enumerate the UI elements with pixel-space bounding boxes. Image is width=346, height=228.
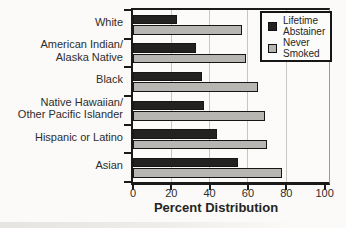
- category-label: American Indian/Alaska Native: [0, 37, 123, 66]
- category-label: Hispanic or Latino: [0, 123, 123, 152]
- x-axis-tick-label: 0: [130, 187, 136, 199]
- legend-swatch-black-icon: [268, 22, 277, 31]
- category-label: White: [0, 8, 123, 37]
- bar-lifetime-abstainer: [133, 101, 204, 111]
- y-axis-tick: [124, 124, 131, 126]
- legend-entry-lifetime-abstainer: Lifetime Abstainer: [268, 15, 330, 37]
- scan-edge-shadow: [0, 222, 346, 228]
- bar-never-smoked: [133, 140, 267, 150]
- bar-lifetime-abstainer: [133, 15, 177, 25]
- legend-swatch-gray-icon: [268, 44, 277, 53]
- category-label: Asian: [0, 151, 123, 180]
- legend: Lifetime Abstainer Never Smoked: [260, 11, 332, 62]
- x-axis-tick-label: 60: [242, 187, 254, 199]
- bar-never-smoked: [133, 168, 282, 178]
- y-axis-tick: [124, 66, 131, 68]
- x-axis-tick-label: 100: [315, 187, 333, 199]
- x-axis-tick-label: 80: [280, 187, 292, 199]
- legend-entry-never-smoked: Never Smoked: [268, 37, 330, 59]
- bar-never-smoked: [133, 111, 265, 121]
- gridline-20: [171, 10, 172, 182]
- x-axis-tick-label: 40: [204, 187, 216, 199]
- gridline-60: [247, 10, 248, 182]
- legend-label: Lifetime Abstainer: [283, 15, 325, 37]
- bar-chart-figure: WhiteAmerican Indian/Alaska NativeBlackN…: [0, 0, 346, 228]
- x-axis-title: Percent Distribution: [117, 200, 315, 215]
- y-axis-tick: [124, 152, 131, 154]
- gridline-40: [209, 10, 210, 182]
- y-axis-tick: [124, 95, 131, 97]
- y-axis-tick: [124, 181, 131, 183]
- y-axis-tick: [124, 38, 131, 40]
- category-label: Black: [0, 65, 123, 94]
- bar-never-smoked: [133, 25, 242, 35]
- bar-lifetime-abstainer: [133, 129, 217, 139]
- x-axis-tick-label: 20: [165, 187, 177, 199]
- category-label: Native Hawaiian/Other Pacific Islander: [0, 94, 123, 123]
- legend-label: Never Smoked: [283, 37, 320, 59]
- bar-lifetime-abstainer: [133, 72, 202, 82]
- bar-never-smoked: [133, 82, 258, 92]
- bar-lifetime-abstainer: [133, 43, 196, 53]
- bar-lifetime-abstainer: [133, 158, 238, 168]
- bar-never-smoked: [133, 54, 246, 64]
- y-axis-tick: [124, 9, 131, 11]
